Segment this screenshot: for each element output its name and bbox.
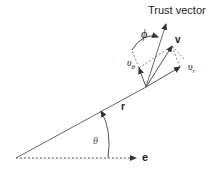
trust-vector-label: Trust vector bbox=[148, 5, 206, 16]
orbital-vector-diagram: Trust vector ϕ v υθ υr r θ e bbox=[0, 0, 208, 169]
r-label: r bbox=[121, 102, 125, 112]
v-theta-subscript: θ bbox=[132, 63, 135, 71]
theta-arc bbox=[101, 111, 109, 158]
v-theta-label: υθ bbox=[127, 58, 135, 71]
dashed-construction-2 bbox=[172, 46, 180, 67]
dashed-construction-4 bbox=[172, 46, 184, 59]
e-label: e bbox=[142, 152, 148, 163]
r-vector-line bbox=[16, 87, 146, 158]
v-theta-component-line bbox=[139, 68, 146, 87]
theta-label: θ bbox=[93, 136, 98, 146]
v-label: v bbox=[175, 35, 181, 45]
v-r-label: υr bbox=[188, 62, 195, 75]
diagram-lines bbox=[0, 0, 208, 169]
velocity-vector-line bbox=[146, 46, 172, 87]
phi-label: ϕ bbox=[141, 28, 147, 40]
v-r-subscript: r bbox=[193, 67, 196, 75]
